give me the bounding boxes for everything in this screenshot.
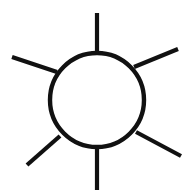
sun-icon-canvas: Sun [0,0,192,196]
sun-icon: Sun [0,0,192,196]
